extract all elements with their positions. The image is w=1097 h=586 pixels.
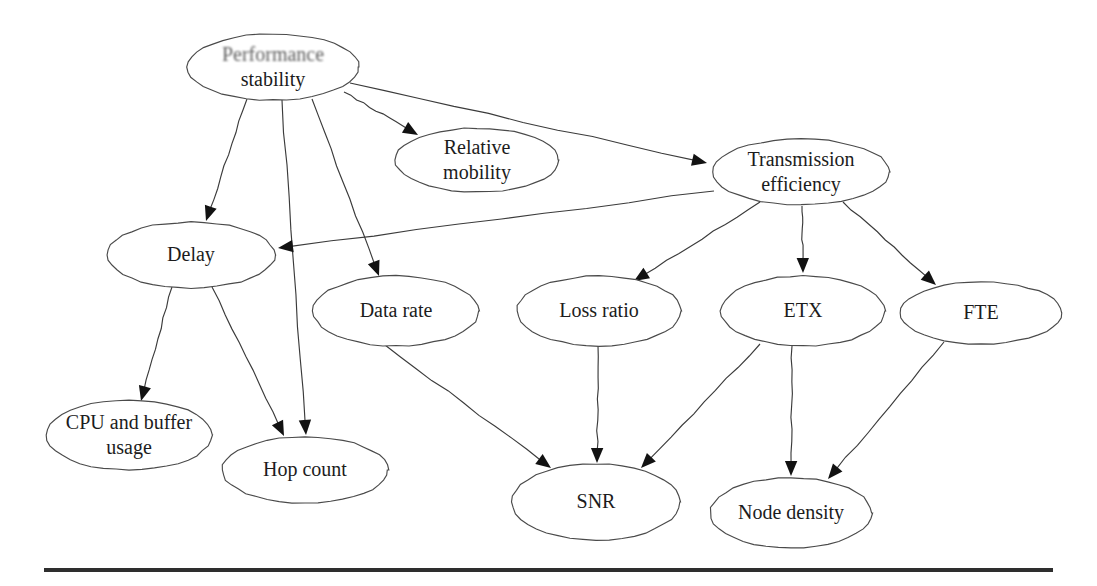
node-label: Delay <box>167 243 215 266</box>
node-node-density[interactable]: Node density <box>710 478 872 548</box>
node-label: Data rate <box>360 299 433 321</box>
node-transmission-efficiency[interactable]: Transmissionefficiency <box>713 139 890 205</box>
edge-line <box>802 206 803 262</box>
edge-transmission-efficiency-to-loss-ratio <box>634 202 760 281</box>
edge-performance-stability-to-relative-mobility <box>344 92 418 135</box>
edge-line <box>344 92 408 129</box>
node-data-rate[interactable]: Data rate <box>312 275 479 346</box>
node-label-line1: Transmission <box>747 148 854 170</box>
node-performance-stability[interactable]: Performancestability <box>187 34 359 100</box>
edge-data-rate-to-snr <box>385 345 551 468</box>
edge-line <box>212 287 279 426</box>
arrowhead-icon <box>797 258 809 273</box>
arrowhead-icon <box>634 268 650 281</box>
node-etx[interactable]: ETX <box>720 276 886 346</box>
edge-line <box>210 99 248 211</box>
edge-line <box>289 191 714 247</box>
edge-line <box>385 345 542 461</box>
node-label: Loss ratio <box>559 299 638 321</box>
node-delay[interactable]: Delay <box>107 222 276 289</box>
edge-line <box>791 346 792 465</box>
edge-line <box>282 100 305 424</box>
node-label-line2: stability <box>241 68 305 91</box>
arrowhead-icon <box>591 448 603 463</box>
node-hop-count[interactable]: Hop count <box>222 437 389 503</box>
edge-line <box>835 342 944 471</box>
node-label-line1: Relative <box>444 136 511 158</box>
node-label-line2: usage <box>106 436 152 459</box>
edge-performance-stability-to-delay <box>205 99 247 221</box>
arrowhead-icon <box>139 385 151 401</box>
arrowhead-icon <box>921 270 936 285</box>
node-label: FTE <box>963 301 999 323</box>
edge-etx-to-snr <box>641 344 760 468</box>
node-label-line1: CPU and buffer <box>66 411 193 433</box>
arrowhead-icon <box>691 154 707 166</box>
figure-container: PerformancestabilityRelativemobilityTran… <box>0 0 1097 586</box>
edge-performance-stability-to-hop-count <box>282 100 311 435</box>
edge-delay-to-cpu-and-buffer-usage <box>139 287 172 401</box>
node-label-line1: Performance <box>222 43 324 65</box>
edge-line <box>649 344 760 460</box>
node-label: SNR <box>577 490 617 512</box>
nodes-layer: PerformancestabilityRelativemobilityTran… <box>46 34 1062 548</box>
arrowhead-icon <box>535 454 551 468</box>
edge-line <box>144 287 172 390</box>
node-label: ETX <box>784 299 823 321</box>
edge-line <box>597 346 599 452</box>
node-snr[interactable]: SNR <box>512 464 681 540</box>
arrowhead-icon <box>828 464 842 479</box>
edge-line <box>312 99 375 266</box>
arrowhead-icon <box>205 205 217 221</box>
node-cpu-and-buffer-usage[interactable]: CPU and bufferusage <box>46 400 212 470</box>
node-label: Node density <box>738 501 844 524</box>
node-fte[interactable]: FTE <box>900 282 1062 344</box>
edge-loss-ratio-to-snr <box>591 346 603 463</box>
bottom-divider-rule <box>44 568 1053 572</box>
arrowhead-icon <box>299 420 311 435</box>
graph-canvas: PerformancestabilityRelativemobilityTran… <box>0 0 1097 586</box>
node-label-line2: efficiency <box>761 173 841 196</box>
edge-delay-to-hop-count <box>212 287 284 436</box>
edge-etx-to-node-density <box>785 346 797 476</box>
edge-fte-to-node-density <box>828 342 944 479</box>
node-relative-mobility[interactable]: Relativemobility <box>395 128 559 192</box>
arrowhead-icon <box>278 240 294 252</box>
node-label: Hop count <box>263 458 347 481</box>
arrowhead-icon <box>785 461 797 476</box>
edge-performance-stability-to-data-rate <box>312 99 379 276</box>
edge-line <box>843 202 928 278</box>
arrowhead-icon <box>368 260 380 276</box>
node-loss-ratio[interactable]: Loss ratio <box>517 276 681 347</box>
node-label-line2: mobility <box>443 161 511 184</box>
arrowhead-icon <box>402 122 418 135</box>
edge-transmission-efficiency-to-delay <box>278 191 714 252</box>
edge-transmission-efficiency-to-etx <box>797 206 809 273</box>
edge-transmission-efficiency-to-fte <box>843 202 936 285</box>
edge-line <box>643 202 760 275</box>
